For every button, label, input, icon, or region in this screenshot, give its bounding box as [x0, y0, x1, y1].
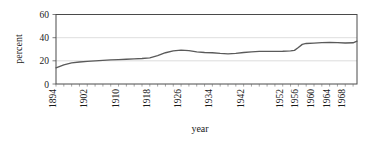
chart-figure: 60 40 20 0 percent 189419021910191819261…	[0, 0, 376, 143]
y-axis-tick-label-20: 20	[40, 56, 50, 66]
x-axis-tick-label-1902: 1902	[79, 89, 89, 108]
x-axis-tick-label-1968: 1968	[337, 89, 347, 108]
line-chart: 60 40 20 0 percent 189419021910191819261…	[0, 0, 376, 143]
y-axis-title: percent	[13, 34, 24, 64]
x-axis-tick-label-1918: 1918	[142, 89, 152, 108]
x-axis-tick-label-1952: 1952	[275, 89, 285, 108]
y-axis-tick-label-60: 60	[40, 10, 50, 20]
x-axis-tick-label-1964: 1964	[322, 89, 332, 108]
x-axis-tick-label-1910: 1910	[111, 89, 121, 108]
x-axis-tick-label-1926: 1926	[173, 89, 183, 108]
x-axis-tick-label-1934: 1934	[204, 89, 214, 108]
x-axis-tick-label-1894: 1894	[48, 89, 58, 108]
x-axis-title: year	[191, 123, 209, 134]
x-axis-tick-label-1956: 1956	[290, 89, 300, 108]
x-axis-tick-label-1942: 1942	[236, 89, 246, 108]
x-axis-tick-label-1960: 1960	[306, 89, 316, 108]
y-axis-tick-label-0: 0	[44, 80, 49, 90]
y-axis-tick-label-40: 40	[40, 33, 50, 43]
